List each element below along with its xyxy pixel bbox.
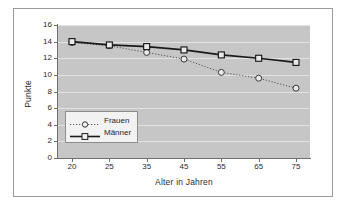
data-point-marker bbox=[181, 47, 187, 53]
data-point-marker bbox=[256, 55, 262, 61]
legend-swatch-frauen bbox=[70, 116, 100, 127]
data-point-marker bbox=[144, 44, 150, 50]
data-point-marker bbox=[181, 56, 187, 62]
chart-series-layer bbox=[0, 0, 348, 208]
data-point-marker bbox=[293, 85, 299, 91]
legend-swatch-maenner bbox=[70, 128, 100, 139]
chart-legend: Frauen Männer bbox=[65, 111, 138, 143]
data-point-marker bbox=[69, 39, 75, 45]
legend-item-frauen: Frauen bbox=[70, 115, 131, 127]
data-point-marker bbox=[144, 49, 150, 55]
chart-figure: 0246810121416 20253545556575 Punkte Alte… bbox=[0, 0, 348, 208]
data-point-marker bbox=[106, 42, 112, 48]
legend-item-maenner: Männer bbox=[70, 127, 131, 139]
data-point-marker bbox=[218, 52, 224, 58]
legend-label-maenner: Männer bbox=[104, 128, 131, 138]
data-point-marker bbox=[218, 69, 224, 75]
legend-label-frauen: Frauen bbox=[104, 116, 129, 126]
data-point-marker bbox=[256, 75, 262, 81]
data-point-marker bbox=[293, 59, 299, 65]
